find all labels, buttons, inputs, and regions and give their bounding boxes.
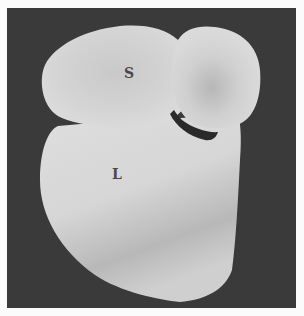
label-s: S bbox=[124, 66, 134, 80]
lower-lobe bbox=[40, 115, 241, 302]
specimen-photo bbox=[0, 0, 304, 316]
label-l: L bbox=[112, 167, 122, 181]
upper-right-lobe bbox=[172, 26, 260, 128]
upper-left-lobe bbox=[42, 26, 189, 129]
